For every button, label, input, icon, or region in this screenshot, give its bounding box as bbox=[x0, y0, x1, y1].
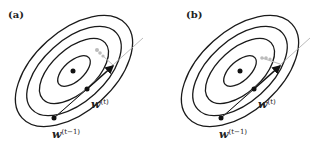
previous-point-label: w(t−1) bbox=[52, 128, 80, 141]
minimum-point bbox=[238, 69, 243, 74]
previous-point-label: w(t−1) bbox=[219, 128, 247, 141]
panel-b-label: (b) bbox=[186, 9, 202, 20]
figure-canvas: (a) w(t) w(t−1) (b) bbox=[0, 0, 325, 147]
current-point-label: w(t) bbox=[258, 98, 276, 111]
panel-a-label: (a) bbox=[8, 9, 24, 20]
current-point bbox=[85, 87, 90, 92]
current-point-label: w(t) bbox=[91, 98, 109, 111]
panel-b: (b) w(t) w(t−1) bbox=[161, 0, 319, 147]
previous-point bbox=[52, 116, 57, 121]
current-point bbox=[252, 87, 257, 92]
contour-ellipses bbox=[0, 0, 153, 147]
previous-point bbox=[219, 116, 224, 121]
panel-a: (a) w(t) w(t−1) bbox=[0, 0, 153, 147]
minimum-point bbox=[71, 69, 76, 74]
